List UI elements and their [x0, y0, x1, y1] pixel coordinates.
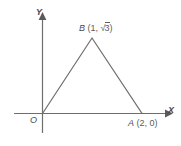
point-b-label: B (1, √3) [79, 24, 113, 33]
point-a-label: A (2, 0) [128, 119, 158, 128]
triangle-oab [43, 38, 143, 114]
x-axis-label: X [168, 106, 174, 115]
geometry-figure: Y X O B (1, √3) A (2, 0) [0, 0, 181, 146]
point-a-coords: (2, 0) [137, 118, 158, 128]
point-b-coords-close: ) [110, 23, 113, 33]
origin-label: O [30, 116, 37, 125]
y-axis-label: Y [36, 8, 42, 17]
point-b-coords-open: (1, [88, 23, 99, 33]
